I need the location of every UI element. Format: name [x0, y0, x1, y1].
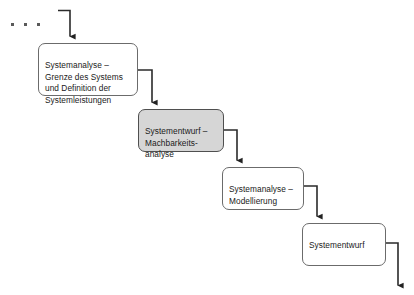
waterfall-diagram: Systemanalyse – Grenze des Systems und D…	[0, 0, 414, 295]
ellipsis-icon	[11, 21, 51, 29]
connector-exit-arrow	[386, 243, 399, 286]
phase-box-analysis-modelling[interactable]: Systemanalyse – Modellierung	[222, 167, 304, 210]
phase-box-system-design[interactable]: Systementwurf	[302, 223, 386, 266]
connector-analysis-to-feasibility	[138, 70, 153, 103]
connector-feasibility-to-modelling	[224, 130, 238, 161]
connector-modelling-to-design	[304, 186, 318, 217]
phase-box-analysis-boundaries[interactable]: Systemanalyse – Grenze des Systems und D…	[38, 43, 138, 96]
ellipsis-dot	[11, 23, 14, 26]
ellipsis-dot	[37, 23, 40, 26]
phase-box-label: Systemanalyse – Grenze des Systems und D…	[45, 60, 131, 106]
ellipsis-dot	[24, 23, 27, 26]
phase-box-design-feasibility[interactable]: Systementwurf – Machbarkeits- analyse	[138, 109, 224, 152]
phase-box-label: Systemanalyse – Modellierung	[229, 184, 297, 207]
phase-box-label: Systementwurf	[309, 240, 379, 251]
connector-entry-arrow	[58, 11, 70, 37]
phase-box-label: Systementwurf – Machbarkeits- analyse	[145, 126, 217, 160]
